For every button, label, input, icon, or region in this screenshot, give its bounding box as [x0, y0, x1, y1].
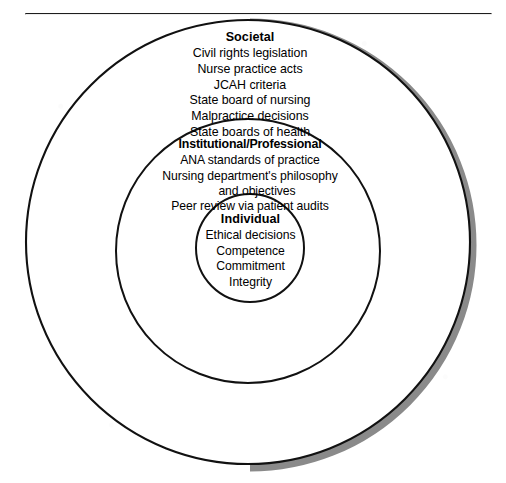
individual-ring-text-block: Individual Ethical decisions Competence … — [196, 212, 305, 290]
institutional-professional-heading: Institutional/Professional — [137, 137, 363, 153]
societal-item: Malpractice decisions — [161, 109, 339, 125]
societal-item: JCAH criteria — [161, 78, 339, 94]
individual-item: Competence — [196, 244, 305, 259]
societal-item: Nurse practice acts — [161, 62, 339, 78]
societal-item: Civil rights legislation — [161, 46, 339, 62]
institutional-professional-ring-text-block: Institutional/Professional ANA standards… — [137, 137, 363, 215]
individual-item: Ethical decisions — [196, 228, 305, 243]
societal-item: State board of nursing — [161, 93, 339, 109]
individual-item: Integrity — [196, 275, 305, 290]
societal-heading: Societal — [161, 30, 339, 46]
institutional-professional-item: and objectives — [137, 184, 363, 199]
individual-item: Commitment — [196, 259, 305, 274]
societal-ring-text-block: Societal Civil rights legislation Nurse … — [161, 30, 339, 141]
institutional-professional-item: Nursing department's philosophy — [137, 169, 363, 184]
figure-diagram: Societal Civil rights legislation Nurse … — [0, 0, 506, 483]
institutional-professional-item: ANA standards of practice — [137, 153, 363, 168]
individual-heading: Individual — [196, 212, 305, 228]
